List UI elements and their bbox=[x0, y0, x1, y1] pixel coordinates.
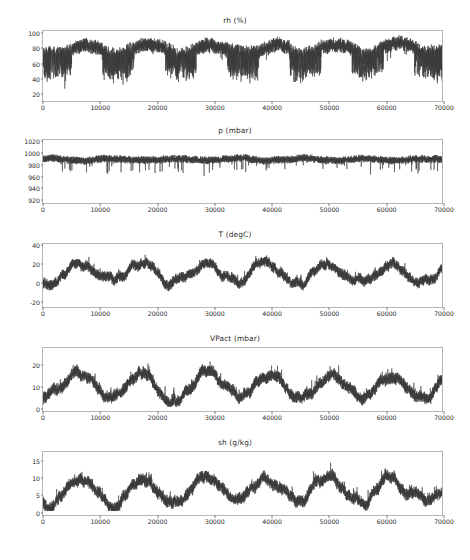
x-tick-label: 0 bbox=[41, 310, 45, 317]
series-line-p bbox=[43, 154, 442, 176]
x-tick-label: 40000 bbox=[262, 518, 282, 525]
y-tick-mark bbox=[41, 365, 44, 366]
x-tick-mark bbox=[43, 307, 44, 310]
y-tick-label: 20 bbox=[32, 362, 40, 369]
plot-area: 2010001000020000300004000050000600007000… bbox=[42, 347, 443, 412]
x-tick-mark bbox=[100, 411, 101, 414]
y-tick-label: 5 bbox=[36, 492, 40, 499]
x-tick-label: 70000 bbox=[434, 518, 454, 525]
x-tick-mark bbox=[444, 515, 445, 518]
x-tick-label: 20000 bbox=[148, 104, 168, 111]
trace-canvas bbox=[43, 348, 442, 411]
trace-canvas bbox=[43, 244, 442, 307]
x-tick-label: 70000 bbox=[434, 414, 454, 421]
x-tick-mark bbox=[272, 411, 273, 414]
x-tick-label: 0 bbox=[41, 414, 45, 421]
x-tick-mark bbox=[100, 101, 101, 104]
y-tick-label: 15 bbox=[32, 457, 40, 464]
x-tick-mark bbox=[329, 307, 330, 310]
x-tick-mark bbox=[214, 101, 215, 104]
series-line-T bbox=[43, 255, 442, 291]
y-tick-mark bbox=[41, 200, 44, 201]
x-tick-mark bbox=[386, 101, 387, 104]
x-tick-label: 60000 bbox=[377, 414, 397, 421]
y-tick-label: 940 bbox=[28, 185, 40, 192]
plot-area: 40200-2001000020000300004000050000600007… bbox=[42, 243, 443, 308]
x-tick-mark bbox=[100, 203, 101, 206]
y-tick-mark bbox=[41, 244, 44, 245]
y-tick-label: 20 bbox=[32, 90, 40, 97]
x-tick-label: 60000 bbox=[377, 104, 397, 111]
y-tick-label: 20 bbox=[32, 261, 40, 268]
x-tick-mark bbox=[272, 307, 273, 310]
x-tick-mark bbox=[272, 101, 273, 104]
trace-canvas bbox=[43, 452, 442, 515]
x-tick-label: 30000 bbox=[205, 310, 225, 317]
x-tick-label: 40000 bbox=[262, 414, 282, 421]
x-tick-label: 10000 bbox=[90, 206, 110, 213]
x-tick-label: 0 bbox=[41, 518, 45, 525]
y-tick-mark bbox=[41, 63, 44, 64]
y-tick-mark bbox=[41, 78, 44, 79]
x-tick-mark bbox=[157, 411, 158, 414]
x-tick-label: 20000 bbox=[148, 206, 168, 213]
y-tick-label: 1000 bbox=[24, 150, 40, 157]
plot-area: 1020100098096094092001000020000300004000… bbox=[42, 139, 443, 204]
x-tick-label: 20000 bbox=[148, 414, 168, 421]
y-tick-mark bbox=[41, 164, 44, 165]
y-tick-label: 0 bbox=[36, 280, 40, 287]
y-tick-mark bbox=[41, 302, 44, 303]
y-tick-label: 980 bbox=[28, 161, 40, 168]
x-tick-label: 40000 bbox=[262, 310, 282, 317]
x-tick-mark bbox=[386, 307, 387, 310]
x-tick-mark bbox=[329, 203, 330, 206]
x-tick-mark bbox=[43, 515, 44, 518]
series-line-VPact bbox=[43, 362, 442, 407]
subplot-title: sh (g/kg) bbox=[0, 438, 470, 447]
x-tick-mark bbox=[157, 515, 158, 518]
x-tick-mark bbox=[157, 307, 158, 310]
y-tick-label: 10 bbox=[32, 475, 40, 482]
y-tick-label: 100 bbox=[28, 30, 40, 37]
x-tick-mark bbox=[329, 515, 330, 518]
subplot-title: VPact (mbar) bbox=[0, 334, 470, 343]
x-tick-label: 10000 bbox=[90, 414, 110, 421]
x-tick-mark bbox=[386, 411, 387, 414]
x-tick-mark bbox=[272, 515, 273, 518]
x-tick-label: 50000 bbox=[320, 414, 340, 421]
x-tick-mark bbox=[214, 411, 215, 414]
y-tick-mark bbox=[41, 93, 44, 94]
plot-area: 1510500100002000030000400005000060000700… bbox=[42, 451, 443, 516]
x-tick-mark bbox=[444, 203, 445, 206]
x-tick-label: 50000 bbox=[320, 206, 340, 213]
x-tick-mark bbox=[272, 203, 273, 206]
x-tick-mark bbox=[444, 307, 445, 310]
y-tick-label: 10 bbox=[32, 384, 40, 391]
y-tick-mark bbox=[41, 33, 44, 34]
y-tick-mark bbox=[41, 264, 44, 265]
x-tick-label: 10000 bbox=[90, 104, 110, 111]
y-tick-mark bbox=[41, 176, 44, 177]
y-tick-label: 40 bbox=[32, 75, 40, 82]
subplot-title: T (degC) bbox=[0, 230, 470, 239]
x-tick-label: 0 bbox=[41, 206, 45, 213]
x-tick-label: 60000 bbox=[377, 518, 397, 525]
x-tick-label: 40000 bbox=[262, 206, 282, 213]
trace-canvas bbox=[43, 140, 442, 203]
subplot-title: p (mbar) bbox=[0, 126, 470, 135]
y-tick-mark bbox=[41, 153, 44, 154]
x-tick-mark bbox=[444, 411, 445, 414]
subplot-title: rh (%) bbox=[0, 16, 470, 25]
y-tick-mark bbox=[41, 48, 44, 49]
x-tick-label: 50000 bbox=[320, 104, 340, 111]
x-tick-label: 60000 bbox=[377, 206, 397, 213]
x-tick-label: 20000 bbox=[148, 310, 168, 317]
x-tick-mark bbox=[43, 101, 44, 104]
x-tick-label: 20000 bbox=[148, 518, 168, 525]
x-tick-label: 30000 bbox=[205, 206, 225, 213]
x-tick-mark bbox=[43, 203, 44, 206]
series-line-sh bbox=[43, 463, 442, 511]
x-tick-label: 70000 bbox=[434, 310, 454, 317]
y-tick-label: 960 bbox=[28, 173, 40, 180]
x-tick-mark bbox=[43, 411, 44, 414]
